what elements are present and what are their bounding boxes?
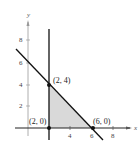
point-2-4 [47,83,51,87]
x-axis-arrow-icon [126,127,132,130]
label-point-2-0: (2, 0) [29,117,47,126]
tick-y-4: 4 [19,81,23,89]
x-axis-label: x [133,124,138,132]
tick-x-4: 4 [68,132,72,140]
point-2-0 [47,126,51,130]
tick-x-6: 6 [90,132,94,140]
tick-x-8: 8 [111,132,115,140]
point-6-0 [91,126,95,130]
tick-y-2: 2 [19,102,23,110]
y-axis-label: y [26,11,31,19]
tick-y-6: 6 [19,59,23,67]
feasible-region-graph: y x 2 4 6 8 4 6 8 (2, 4) (2, 0) (6, 0) [0,0,139,148]
label-point-2-4: (2, 4) [53,76,71,85]
tick-y-8: 8 [19,36,23,44]
y-axis-arrow-icon [27,20,30,26]
label-point-6-0: (6, 0) [93,117,111,126]
